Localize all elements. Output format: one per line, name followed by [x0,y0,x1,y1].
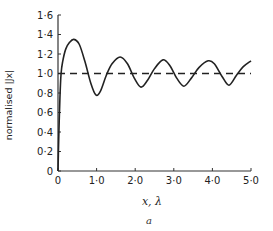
x-axis-label: x, λ [142,195,162,208]
y-tick-label: 0·4 [37,127,53,138]
y-tick-label: 1·4 [37,29,53,40]
x-tick-label: 2·0 [127,175,143,186]
figure-caption: a [146,215,152,226]
y-tick-label: 0·8 [37,88,53,99]
y-tick-label: 1·2 [37,49,53,60]
x-tick-label: 0 [55,175,61,186]
x-tick-label: 5·0 [243,175,259,186]
series-line-normalised-jx [58,39,251,171]
y-tick-label: 1·0 [37,68,53,79]
x-tick-label: 1·0 [89,175,105,186]
y-tick-label: 0·2 [37,146,53,157]
axes [58,15,251,171]
series [58,39,251,171]
y-tick-label: 0 [47,166,53,177]
x-tick-label: 4·0 [204,175,220,186]
y-axis-label: normalised |Jx| [3,70,14,141]
x-tick-label: 3·0 [166,175,182,186]
chart: 00·20·40·60·81·01·21·41·6 01·02·03·04·05… [0,0,273,231]
y-tick-label: 0·6 [37,107,53,118]
y-tick-label: 1·6 [37,10,53,21]
